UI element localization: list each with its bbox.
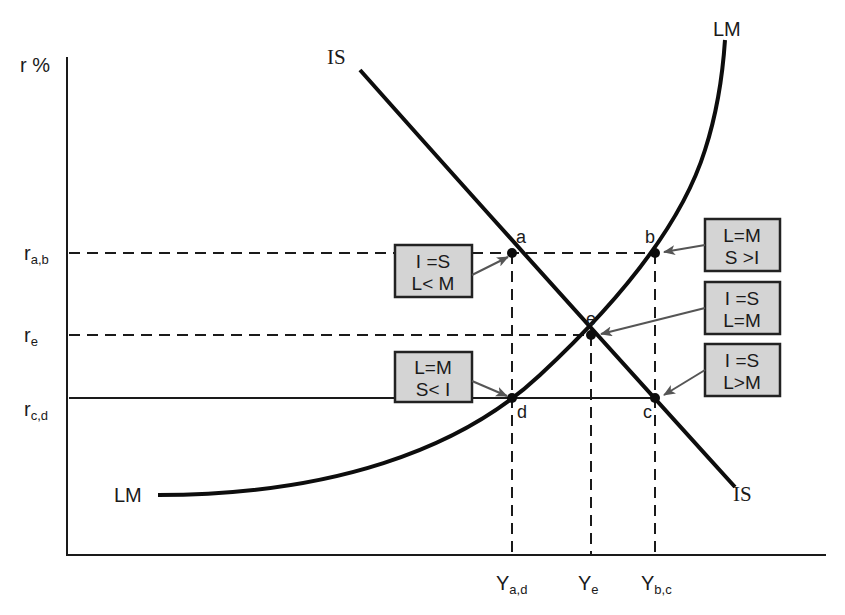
- svg-text:L=M: L=M: [414, 357, 452, 378]
- condition-box-a: I =S L< M: [395, 245, 472, 297]
- svg-text:L>M: L>M: [723, 372, 761, 393]
- condition-box-c: I =S L>M: [705, 344, 780, 396]
- arrow-to-e: [601, 308, 705, 334]
- arrow-to-d: [472, 381, 507, 396]
- lm-label-top: LM: [713, 18, 741, 40]
- y-axis-label: r %: [20, 54, 50, 76]
- is-lm-diagram: r % ra,b re rc,d Ya,d Ye Yb,c IS IS LM L…: [0, 0, 845, 615]
- y-tick-r-cd: rc,d: [24, 398, 48, 423]
- svg-text:Ye: Ye: [578, 572, 599, 597]
- svg-text:I =S: I =S: [725, 288, 759, 309]
- condition-box-b: L=M S >I: [705, 219, 780, 271]
- arrow-to-a: [472, 257, 508, 275]
- svg-text:re: re: [24, 324, 38, 349]
- svg-text:L=M: L=M: [723, 225, 761, 246]
- svg-text:Ya,d: Ya,d: [496, 572, 527, 597]
- svg-text:ra,b: ra,b: [24, 242, 49, 267]
- svg-text:I =S: I =S: [725, 350, 759, 371]
- svg-text:e: e: [586, 309, 596, 329]
- arrow-to-c: [664, 370, 705, 395]
- condition-box-d: L=M S< I: [395, 352, 472, 402]
- svg-text:c: c: [643, 402, 652, 422]
- condition-box-e: I =S L=M: [705, 282, 780, 334]
- svg-text:S >I: S >I: [725, 247, 759, 268]
- svg-text:rc,d: rc,d: [24, 398, 48, 423]
- y-tick-r-e: re: [24, 324, 38, 349]
- arrow-to-b: [664, 245, 705, 252]
- svg-text:L=M: L=M: [723, 310, 761, 331]
- x-tick-y-ad: Ya,d: [496, 572, 527, 597]
- svg-text:S< I: S< I: [416, 379, 450, 400]
- svg-text:d: d: [517, 402, 527, 422]
- svg-text:I =S: I =S: [416, 251, 450, 272]
- y-tick-r-ab: ra,b: [24, 242, 49, 267]
- is-label-top: IS: [327, 45, 346, 69]
- svg-text:L< M: L< M: [412, 273, 455, 294]
- svg-text:a: a: [516, 227, 527, 247]
- x-tick-y-bc: Yb,c: [641, 572, 672, 597]
- is-label-bottom: IS: [733, 482, 752, 506]
- point-e: e: [586, 309, 596, 340]
- svg-text:b: b: [645, 227, 655, 247]
- x-tick-y-e: Ye: [578, 572, 599, 597]
- svg-text:Yb,c: Yb,c: [641, 572, 672, 597]
- lm-label-bottom: LM: [114, 484, 142, 506]
